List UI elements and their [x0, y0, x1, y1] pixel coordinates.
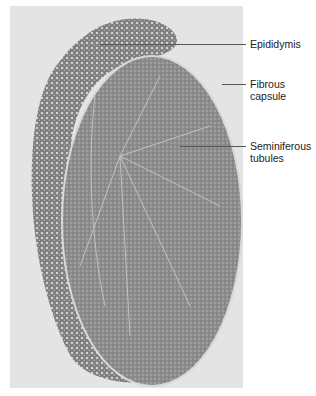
- epididymis-leader-line: [100, 44, 246, 45]
- testis-micrograph: [10, 6, 243, 388]
- label-epididymis: Epididymis: [250, 38, 301, 50]
- seminiferous-tubules-leader-line: [180, 146, 246, 147]
- testis-body: [62, 56, 242, 386]
- label-seminiferous-tubules: Seminiferous tubules: [250, 140, 311, 164]
- label-fibrous-capsule: Fibrous capsule: [250, 78, 286, 102]
- micrograph-panel: [10, 6, 243, 388]
- fibrous-capsule-leader-line: [222, 84, 246, 85]
